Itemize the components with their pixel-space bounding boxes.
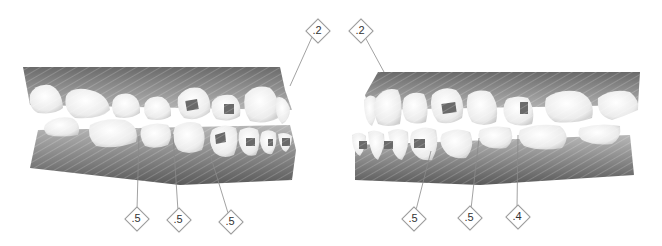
ipr-label: .4 <box>505 204 529 228</box>
ipr-value: .5 <box>408 213 417 224</box>
ipr-label: .5 <box>124 206 148 230</box>
right-side-jaw <box>23 67 296 185</box>
ipr-value: .2 <box>355 25 364 36</box>
ipr-value: .2 <box>312 25 321 36</box>
ipr-label: .5 <box>166 207 190 231</box>
ipr-diagram: .2 .5 .5 .5 .2 .5 .5 .4 <box>0 0 662 246</box>
ipr-label: .5 <box>218 209 242 233</box>
ipr-value: .5 <box>131 213 140 224</box>
ipr-label: .2 <box>348 18 372 42</box>
left-side-jaw <box>352 72 640 185</box>
ipr-label: .5 <box>457 205 481 229</box>
ipr-value: .5 <box>225 216 234 227</box>
ipr-label: .5 <box>401 206 425 230</box>
ipr-value: .5 <box>173 214 182 225</box>
jaw-illustrations <box>0 0 662 246</box>
ipr-label: .2 <box>305 18 329 42</box>
ipr-value: .4 <box>512 211 521 222</box>
ipr-value: .5 <box>464 212 473 223</box>
